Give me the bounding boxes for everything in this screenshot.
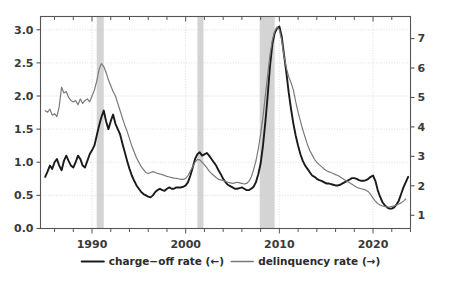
x-axis-tick-label-0: 1990 xyxy=(77,238,108,251)
left-axis-tick-label-0: 0.0 xyxy=(14,222,34,235)
x-axis-tick-label-2: 2010 xyxy=(264,238,295,251)
right-axis-tick-label-0: 1 xyxy=(418,209,426,222)
left-axis-tick-label-3: 1.5 xyxy=(14,123,34,136)
right-axis-tick-label-6: 7 xyxy=(418,32,426,45)
right-axis-tick-label-1: 2 xyxy=(418,180,426,193)
legend-entry-delinquency: delinquency rate (→) xyxy=(231,255,380,267)
left-axis-tick-label-5: 2.5 xyxy=(14,57,34,70)
plot-background xyxy=(41,17,411,229)
left-axis-tick-label-1: 0.5 xyxy=(14,189,34,202)
left-axis-tick-label-4: 2.0 xyxy=(14,90,34,103)
x-axis-tick-label-1: 2000 xyxy=(170,238,201,251)
x-axis-tick-label-3: 2020 xyxy=(358,238,389,251)
chart-container: 0.00.51.01.52.02.53.01234567199020002010… xyxy=(0,0,454,282)
right-axis-tick-label-4: 5 xyxy=(418,91,426,104)
legend-label-1: delinquency rate (→) xyxy=(258,255,380,267)
legend-entry-charge-off: charge−off rate (←) xyxy=(82,255,224,267)
legend-label-0: charge−off rate (←) xyxy=(109,255,224,267)
left-axis-tick-label-6: 3.0 xyxy=(14,24,34,37)
recession-band-1 xyxy=(197,17,203,229)
right-axis-tick-label-5: 6 xyxy=(418,62,426,75)
left-axis-tick-label-2: 1.0 xyxy=(14,156,34,169)
right-axis-tick-label-3: 4 xyxy=(418,121,426,134)
right-axis-tick-label-2: 3 xyxy=(418,150,426,163)
dual-axis-line-chart: 0.00.51.01.52.02.53.01234567199020002010… xyxy=(0,0,454,282)
